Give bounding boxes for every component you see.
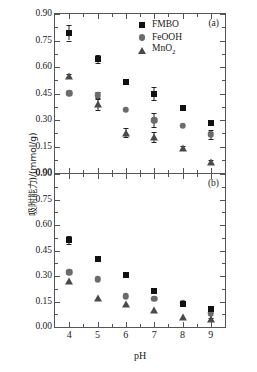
x-tick-minor-top — [197, 174, 198, 177]
y-tick — [55, 67, 60, 68]
data-point-feooh — [94, 92, 101, 99]
y-tick-minor-right — [222, 187, 225, 188]
y-tick — [55, 302, 60, 303]
error-bar-cap — [152, 87, 157, 88]
error-bar-cap — [152, 127, 157, 128]
data-point-mno2 — [65, 73, 73, 80]
y-tick-minor-right — [222, 80, 225, 81]
y-tick-minor-right — [222, 160, 225, 161]
x-tick-minor — [197, 324, 198, 327]
y-tick-right — [220, 225, 225, 226]
y-tick-label: 0.30 — [35, 115, 52, 125]
data-point-feooh — [66, 90, 73, 97]
y-tick — [55, 94, 60, 95]
data-point-fmbo — [180, 301, 186, 307]
y-tick-right — [220, 302, 225, 303]
legend-label: MnO2 — [152, 42, 176, 59]
figure-container: 吸附能力)/(mmol/g) 0.000.150.300.450.600.750… — [0, 0, 257, 372]
y-tick-label: 0.75 — [35, 36, 52, 46]
error-bar-cap — [152, 113, 157, 114]
y-tick-right — [220, 251, 225, 252]
x-tick-label: 9 — [208, 330, 213, 340]
y-tick-minor — [55, 80, 58, 81]
y-tick-right — [220, 67, 225, 68]
data-point-mno2 — [150, 134, 158, 141]
legend-marker-circle-icon — [137, 34, 147, 41]
data-point-feooh — [94, 276, 101, 283]
y-tick-minor-right — [222, 27, 225, 28]
y-tick-minor-right — [222, 107, 225, 108]
y-tick-minor-right — [222, 212, 225, 213]
legend-item-mno[interactable]: MnO2 — [137, 44, 182, 57]
data-point-fmbo — [66, 237, 72, 243]
data-point-fmbo — [208, 306, 214, 312]
error-bar-cap — [67, 41, 72, 42]
y-tick-minor-right — [222, 238, 225, 239]
marker-circle — [139, 34, 146, 41]
data-point-fmbo — [66, 30, 72, 36]
y-tick-label: 0.15 — [35, 297, 52, 307]
error-bar-cap — [67, 25, 72, 26]
plot-area-b: 0.000.150.300.450.600.750.90456789 — [55, 174, 225, 327]
x-tick-top — [98, 174, 99, 179]
y-tick-minor — [55, 187, 58, 188]
y-tick-right — [220, 120, 225, 121]
y-tick-right — [220, 327, 225, 328]
y-tick — [55, 41, 60, 42]
panel-b: 0.000.150.300.450.600.750.90456789 (b) — [54, 173, 226, 328]
y-tick-label: 0.30 — [35, 271, 52, 281]
data-point-fmbo — [95, 256, 101, 262]
data-point-fmbo — [123, 79, 129, 85]
y-tick-label: 0.90 — [35, 169, 52, 179]
legend-marker-triangle-icon — [137, 47, 147, 54]
x-tick-minor — [112, 324, 113, 327]
y-tick-minor — [55, 263, 58, 264]
x-tick-minor-top — [112, 14, 113, 17]
data-point-mno2 — [179, 314, 187, 321]
y-tick-minor — [55, 289, 58, 290]
y-tick-label: 0.15 — [35, 142, 52, 152]
data-point-mno2 — [179, 145, 187, 152]
data-point-mno2 — [65, 278, 73, 285]
x-tick-minor-top — [168, 174, 169, 177]
data-point-mno2 — [207, 316, 215, 323]
y-tick-label: 0.90 — [35, 9, 52, 19]
x-axis-label: pH — [54, 350, 226, 361]
x-tick-minor-top — [69, 14, 70, 17]
data-point-mno2 — [150, 307, 158, 314]
y-tick-label: 0.75 — [35, 195, 52, 205]
panel-a: 0.000.150.300.450.600.750.90 FMBOFeOOHMn… — [54, 13, 226, 174]
y-tick-right — [220, 14, 225, 15]
data-point-fmbo — [123, 272, 129, 278]
legend: FMBOFeOOHMnO2 — [137, 18, 182, 57]
x-tick-minor — [168, 324, 169, 327]
data-point-feooh — [123, 107, 130, 114]
legend-marker-square-icon — [137, 22, 147, 28]
y-tick — [55, 14, 60, 15]
y-tick-label: 0.60 — [35, 220, 52, 230]
data-point-mno2 — [94, 294, 102, 301]
x-tick — [98, 322, 99, 327]
x-tick-minor-top — [83, 14, 84, 17]
y-tick-minor-right — [222, 54, 225, 55]
x-tick-top — [126, 174, 127, 179]
x-tick-minor-top — [211, 14, 212, 17]
y-tick-minor — [55, 238, 58, 239]
data-point-mno2 — [207, 159, 215, 166]
data-point-feooh — [123, 293, 130, 300]
error-bar-cap — [95, 63, 100, 64]
y-tick-minor-right — [222, 133, 225, 134]
panel-b-tag: (b) — [208, 178, 219, 188]
x-tick-top — [183, 14, 184, 19]
data-point-fmbo — [208, 120, 214, 126]
error-bar-cap — [208, 139, 213, 140]
y-tick-label: 0.45 — [35, 246, 52, 256]
x-tick-top — [98, 14, 99, 19]
x-tick — [183, 322, 184, 327]
x-tick-top — [126, 14, 127, 19]
x-tick-minor-top — [140, 14, 141, 17]
y-tick — [55, 327, 60, 328]
x-tick-minor-top — [140, 174, 141, 177]
legend-item-fmbo[interactable]: FMBO — [137, 18, 182, 31]
y-tick-right — [220, 174, 225, 175]
